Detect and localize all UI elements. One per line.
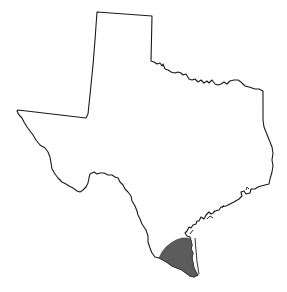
highlighted-region bbox=[159, 238, 197, 277]
texas-map bbox=[0, 0, 287, 292]
texas-outline bbox=[17, 12, 273, 277]
map-canvas bbox=[0, 0, 287, 292]
coastal-islands bbox=[190, 187, 249, 274]
